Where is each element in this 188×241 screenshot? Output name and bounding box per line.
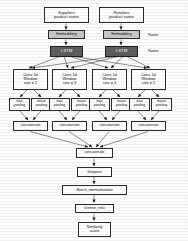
- diagram-canvas: Suppliers product name Retailers product…: [0, 0, 188, 241]
- batch-normalization-box: Batch_normalization: [62, 185, 127, 195]
- conv-box-3: Conv 1d Window size = 4: [92, 69, 127, 90]
- pooling-2-line2: pooling: [36, 104, 47, 108]
- dense-relu-box: Dense_relu: [75, 204, 114, 214]
- pooling-6-line2: pooling: [116, 104, 127, 108]
- embedding-right-label: Embedding: [111, 32, 132, 36]
- conv-box-1: Conv 1d Window size = 2: [13, 69, 48, 90]
- conv-2-line3: size = 3: [63, 81, 77, 85]
- dropout-label: Dropout: [87, 170, 101, 174]
- conv-box-2: Conv 1d Window size = 3: [52, 69, 87, 90]
- embedding-box-left: Embedding: [48, 30, 85, 39]
- dense-relu-label: Dense_relu: [84, 206, 104, 210]
- pooling-1-line2: pooling: [14, 104, 25, 108]
- pooling-box-7: max pooling: [129, 98, 150, 111]
- pooling-box-1: max pooling: [9, 98, 30, 111]
- conv-box-4: Conv 1d Window size = 5: [131, 69, 166, 90]
- pooling-box-3: max pooling: [49, 98, 70, 111]
- concatenate-final-label: concatenate: [84, 151, 104, 155]
- pooling-box-5: max pooling: [89, 98, 110, 111]
- input-suppliers-line2: product name: [54, 15, 79, 19]
- concatenate-2-label: concatenate: [59, 124, 79, 128]
- conv-4-line3: size = 5: [142, 81, 156, 85]
- similarity-score-line2: score: [90, 229, 100, 233]
- input-box-suppliers: Suppliers product name: [44, 7, 89, 23]
- conv-3-line3: size = 4: [103, 81, 117, 85]
- concatenate-3-label: concatenate: [99, 124, 119, 128]
- concatenate-1-label: concatenate: [20, 124, 40, 128]
- lstm-box-right: LSTM: [105, 46, 138, 57]
- pooling-4-line2: pooling: [76, 104, 87, 108]
- concatenate-box-1: concatenate: [13, 121, 48, 131]
- concatenate-4-label: concatenate: [138, 124, 158, 128]
- lstm-box-left: LSTM: [50, 46, 83, 57]
- similarity-score-box: Similarity score: [78, 222, 111, 237]
- concatenate-box-3: concatenate: [92, 121, 127, 131]
- concatenate-box-2: concatenate: [52, 121, 87, 131]
- lstm-right-label: LSTM: [116, 49, 127, 53]
- side-label-same-lstm: Same: [148, 48, 158, 53]
- pooling-7-line2: pooling: [134, 104, 145, 108]
- embedding-left-label: Embedding: [56, 32, 77, 36]
- concatenate-final-box: concatenate: [76, 148, 113, 158]
- conv-1-line3: size = 2: [24, 81, 38, 85]
- input-retailers-line2: product name: [109, 15, 134, 19]
- embedding-box-right: Embedding: [103, 30, 140, 39]
- dropout-box: Dropout: [77, 167, 112, 177]
- pooling-5-line2: pooling: [94, 104, 105, 108]
- input-box-retailers: Retailers product name: [99, 7, 144, 23]
- batch-normalization-label: Batch_normalization: [76, 188, 112, 192]
- concatenate-box-4: concatenate: [131, 121, 166, 131]
- lstm-left-label: LSTM: [61, 49, 72, 53]
- side-label-same-embedding: Same: [148, 32, 158, 37]
- pooling-3-line2: pooling: [54, 104, 65, 108]
- pooling-8-line2: pooling: [156, 104, 167, 108]
- pooling-box-8: mean pooling: [151, 98, 172, 111]
